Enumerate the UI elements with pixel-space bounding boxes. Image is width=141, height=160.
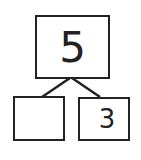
part-right-value: 3 xyxy=(99,104,116,134)
part-left-box[interactable] xyxy=(13,96,65,141)
whole-box: 5 xyxy=(35,15,110,79)
whole-value: 5 xyxy=(59,23,86,72)
part-right-box: 3 xyxy=(78,97,130,141)
